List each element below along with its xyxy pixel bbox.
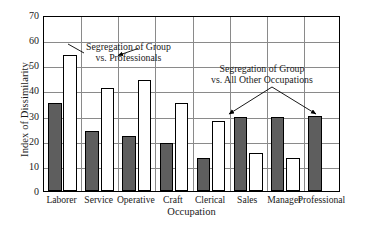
y-axis-tick-labels: 706050403020100 (14, 0, 39, 239)
group-separator (304, 17, 305, 191)
gridline (44, 118, 339, 119)
bar-craft-series-1 (160, 143, 174, 191)
x-tick-label-operative: Operative (117, 194, 155, 205)
bar-sales-series-1 (234, 117, 248, 191)
x-tick-label-craft: Craft (163, 194, 183, 205)
group-separator (193, 17, 194, 191)
y-tick-label: 10 (14, 162, 39, 172)
y-tick-label: 0 (14, 187, 39, 197)
y-tick-label: 40 (14, 86, 39, 96)
annotation-line: vs. All Other Occupations (211, 74, 313, 85)
group-separator (81, 17, 82, 191)
y-tick-label: 70 (14, 11, 39, 21)
x-tick-label-laborer: Laborer (46, 194, 76, 205)
bar-professional-series-1 (308, 116, 322, 191)
scan-footer-artifact (0, 231, 367, 239)
y-tick-label: 50 (14, 61, 39, 71)
x-tick-label-manager: Manager (267, 194, 301, 205)
annotation-line: vs. Professionals (86, 52, 171, 63)
bar-clerical-series-2 (212, 121, 226, 191)
bar-clerical-series-1 (197, 158, 211, 191)
bar-laborer-series-1 (48, 103, 62, 191)
annotation-line: Segregation of Group (86, 41, 171, 52)
annotation-all-other-occupations: Segregation of Groupvs. All Other Occupa… (211, 63, 313, 86)
bar-manager-series-1 (271, 117, 285, 191)
y-tick-label: 30 (14, 112, 39, 122)
bar-laborer-series-2 (63, 55, 77, 191)
bar-sales-series-2 (249, 153, 263, 191)
bar-chart-figure: Index of Dissimilarity 706050403020100 L… (0, 0, 367, 239)
x-axis-title: Occupation (43, 206, 340, 217)
x-tick-label-service: Service (84, 194, 113, 205)
y-tick-label: 60 (14, 36, 39, 46)
bar-service-series-1 (85, 131, 99, 191)
group-separator (230, 17, 231, 191)
bar-operative-series-2 (138, 80, 152, 191)
x-tick-label-professional: Professional (298, 194, 345, 205)
annotation-professionals: Segregation of Groupvs. Professionals (86, 41, 171, 64)
bar-craft-series-2 (175, 103, 189, 191)
group-separator (267, 17, 268, 191)
y-tick-label: 20 (14, 137, 39, 147)
gridline (44, 92, 339, 93)
x-tick-label-sales: Sales (237, 194, 257, 205)
x-tick-label-clerical: Clerical (195, 194, 225, 205)
bar-service-series-2 (101, 88, 115, 191)
bar-manager-series-2 (286, 158, 300, 191)
annotation-line: Segregation of Group (211, 63, 313, 74)
bar-operative-series-1 (122, 136, 136, 191)
